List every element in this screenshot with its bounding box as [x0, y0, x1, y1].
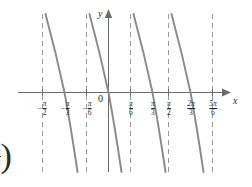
cropped-formula-fragment: π2): [0, 139, 12, 173]
fraction: π2: [43, 100, 47, 117]
fraction: 5π6: [209, 100, 217, 117]
minus-sign: −: [83, 105, 88, 113]
tick-label-neg-pi-over-6: −π6: [83, 100, 92, 117]
origin-label: 0: [98, 93, 103, 104]
tick-label-pi-over-6: π6: [129, 100, 133, 117]
trigonometric-graph: [0, 0, 252, 187]
tick-label-pi-over-3: π3: [151, 100, 155, 117]
minus-sign: −: [38, 105, 43, 113]
fraction: π3: [151, 100, 155, 117]
minus-sign: −: [61, 105, 66, 113]
x-axis-label: x: [233, 95, 237, 106]
tick-label-neg-pi-over-3: −π3: [61, 100, 70, 117]
closing-paren: ): [1, 137, 12, 174]
fraction: π6: [88, 100, 92, 117]
tick-label-5pi-over-6: 5π6: [209, 100, 217, 117]
y-axis-label: y: [98, 8, 102, 19]
x-axis: [18, 89, 231, 97]
fraction: 2π3: [187, 100, 195, 117]
tick-label-pi-over-2: π2: [167, 100, 171, 117]
fraction: π6: [129, 100, 133, 117]
fraction: π3: [66, 100, 70, 117]
fraction: π2: [167, 100, 171, 117]
tick-label-neg-pi-over-2: −π2: [38, 100, 47, 117]
tick-label-2pi-over-3: 2π3: [187, 100, 195, 117]
